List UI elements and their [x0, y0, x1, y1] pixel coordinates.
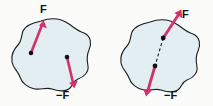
force-label-f-right: F: [182, 9, 189, 20]
force-label-f-left: F: [40, 4, 47, 15]
physics-figure: F −F F −F: [0, 0, 213, 106]
rigid-body-blob-left: [12, 19, 91, 91]
application-point-upper-right: [161, 36, 166, 41]
rigid-body-blob-right: [121, 20, 200, 92]
panel-right: [121, 9, 200, 96]
panel-left: [12, 19, 91, 91]
force-label-negf-left: −F: [56, 90, 69, 101]
application-point-upper-left: [29, 51, 34, 56]
force-label-negf-right: −F: [164, 90, 177, 101]
application-point-lower-left: [65, 55, 70, 60]
application-point-lower-right: [153, 64, 158, 69]
